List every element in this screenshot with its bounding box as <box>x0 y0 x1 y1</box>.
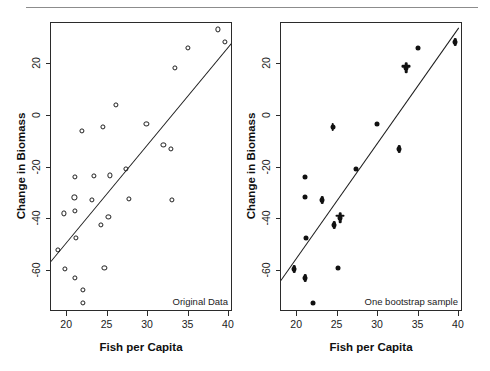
y-axis-tick-label: -20 <box>30 159 42 174</box>
data-point <box>169 198 174 203</box>
data-point <box>106 214 111 219</box>
data-point <box>126 196 131 201</box>
y-axis-tick <box>276 115 281 116</box>
panel-bootstrap-sample: 2025303540200-20-40-60 Fish per Capita C… <box>245 0 490 371</box>
data-point <box>124 167 129 172</box>
data-point <box>397 146 402 151</box>
data-point <box>185 45 190 50</box>
data-point <box>72 195 77 200</box>
x-axis-tick <box>377 311 378 316</box>
data-point <box>222 39 227 44</box>
data-point <box>73 174 78 179</box>
y-axis-tick <box>46 63 51 64</box>
x-axis-tick <box>228 311 229 316</box>
data-point <box>102 265 107 270</box>
x-axis-tick-label: 20 <box>290 318 302 330</box>
data-point <box>172 66 177 71</box>
y-axis-tick-label: -40 <box>30 211 42 226</box>
data-point <box>100 124 105 129</box>
data-point <box>91 173 96 178</box>
y-axis-tick <box>46 167 51 168</box>
x-axis-tick <box>107 311 108 316</box>
x-axis-tick-label: 40 <box>452 318 464 330</box>
panel-annotation-right: One bootstrap sample <box>365 296 458 307</box>
x-axis-tick <box>418 311 419 316</box>
x-axis-tick <box>337 311 338 316</box>
data-point <box>168 146 173 151</box>
y-axis-tick-label: 0 <box>260 112 272 118</box>
data-point <box>161 143 166 148</box>
data-point <box>79 129 84 134</box>
x-axis-tick <box>458 311 459 316</box>
x-axis-tick-label: 25 <box>101 318 113 330</box>
y-axis-tick <box>276 270 281 271</box>
data-point <box>73 275 78 280</box>
data-point <box>330 124 335 129</box>
y-axis-tick-label: -40 <box>260 211 272 226</box>
data-point <box>80 300 85 305</box>
x-axis-tick-label: 35 <box>412 318 424 330</box>
regression-line <box>281 27 459 281</box>
y-axis-tick-label: 0 <box>30 112 42 118</box>
data-point <box>338 215 343 220</box>
y-axis-title-left: Change in Biomass <box>15 113 27 220</box>
plot-box-left <box>50 22 232 311</box>
y-axis-tick <box>46 115 51 116</box>
data-point <box>73 236 78 241</box>
x-axis-tick-label: 35 <box>182 318 194 330</box>
x-axis-tick-label: 20 <box>60 318 72 330</box>
data-point <box>99 222 104 227</box>
x-axis-title-right: Fish per Capita <box>329 341 412 353</box>
data-point <box>452 39 457 44</box>
data-point <box>291 267 296 272</box>
y-axis-tick <box>46 270 51 271</box>
plot-area-left <box>51 23 231 310</box>
data-point <box>332 222 337 227</box>
y-axis-tick-label: -60 <box>30 262 42 277</box>
regression-line <box>51 42 231 262</box>
x-axis-tick <box>66 311 67 316</box>
figure-canvas: 2025303540200-20-40-60 Fish per Capita C… <box>0 0 490 371</box>
data-point <box>415 45 420 50</box>
data-point <box>113 102 118 107</box>
x-axis-tick-label: 40 <box>222 318 234 330</box>
x-axis-tick-label: 30 <box>371 318 383 330</box>
data-point <box>375 121 380 126</box>
data-point <box>303 195 308 200</box>
data-point <box>73 209 78 214</box>
x-axis-tick <box>188 311 189 316</box>
data-point <box>144 121 149 126</box>
plot-area-right <box>281 23 461 310</box>
plot-box-right <box>280 22 462 311</box>
y-axis-tick-label: 20 <box>30 57 42 69</box>
data-point <box>107 173 112 178</box>
y-axis-tick-label: -60 <box>260 262 272 277</box>
data-point <box>61 211 66 216</box>
y-axis-tick <box>276 218 281 219</box>
data-point <box>56 247 61 252</box>
y-axis-tick <box>276 63 281 64</box>
x-axis-title-left: Fish per Capita <box>99 341 182 353</box>
x-axis-tick <box>296 311 297 316</box>
data-point <box>80 287 85 292</box>
y-axis-title-right: Change in Biomass <box>245 113 257 220</box>
y-axis-tick-label: -20 <box>260 159 272 174</box>
data-point <box>304 236 309 241</box>
data-point <box>320 198 325 203</box>
data-point <box>310 300 315 305</box>
data-point <box>303 275 308 280</box>
y-axis-tick <box>46 218 51 219</box>
data-point <box>62 267 67 272</box>
data-point <box>354 167 359 172</box>
y-axis-tick <box>276 167 281 168</box>
panel-annotation-left: Original Data <box>173 296 228 307</box>
x-axis-tick-label: 25 <box>331 318 343 330</box>
x-axis-tick <box>147 311 148 316</box>
panel-original-data: 2025303540200-20-40-60 Fish per Capita C… <box>0 0 245 371</box>
data-point <box>303 175 308 180</box>
data-point <box>336 265 341 270</box>
data-point <box>215 27 220 32</box>
y-axis-tick-label: 20 <box>260 57 272 69</box>
x-axis-tick-label: 30 <box>141 318 153 330</box>
data-point <box>404 65 409 70</box>
